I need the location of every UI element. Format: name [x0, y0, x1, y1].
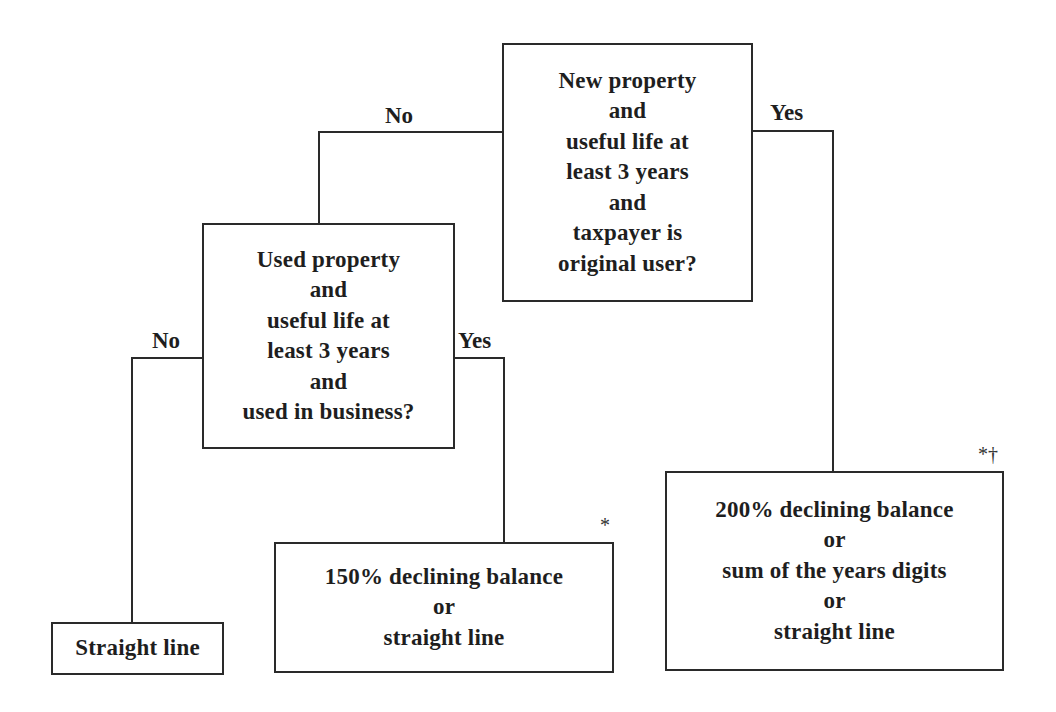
edge-label-second-no: No: [152, 328, 180, 354]
declining-200-line-1: 200% declining balance: [715, 495, 953, 526]
outcome-150-declining-box: 150% declining balance or straight line: [274, 542, 614, 673]
second-line-2: and: [310, 275, 348, 306]
root-line-2: and: [609, 96, 647, 127]
declining-150-line-1: 150% declining balance: [325, 562, 563, 593]
edge-label-second-yes: Yes: [458, 328, 491, 354]
edge-second-no: [132, 358, 202, 622]
edge-root-yes: [752, 131, 833, 471]
declining-150-line-2: or: [433, 592, 455, 623]
footnote-mark-200: *†: [978, 443, 998, 465]
decision-tree-diagram: New property and useful life at least 3 …: [0, 0, 1056, 712]
declining-200-line-5: straight line: [774, 617, 895, 648]
root-decision-box: New property and useful life at least 3 …: [502, 43, 753, 302]
footnote-mark-150: *: [600, 514, 610, 536]
edge-second-yes: [454, 358, 504, 542]
straight-line-text: Straight line: [75, 633, 200, 664]
root-line-7: original user?: [558, 249, 697, 280]
declining-150-line-3: straight line: [384, 623, 505, 654]
declining-200-line-2: or: [823, 525, 845, 556]
second-decision-box: Used property and useful life at least 3…: [202, 223, 455, 449]
root-line-6: taxpayer is: [573, 218, 683, 249]
root-line-3: useful life at: [566, 127, 689, 158]
second-line-3: useful life at: [267, 306, 390, 337]
second-line-6: used in business?: [242, 397, 414, 428]
second-line-5: and: [310, 367, 348, 398]
outcome-straight-line-box: Straight line: [51, 622, 224, 675]
declining-200-line-4: or: [823, 586, 845, 617]
second-line-1: Used property: [257, 245, 400, 276]
declining-200-line-3: sum of the years digits: [722, 556, 946, 587]
outcome-200-declining-box: 200% declining balance or sum of the yea…: [665, 471, 1004, 671]
root-line-1: New property: [558, 66, 696, 97]
edge-label-root-yes: Yes: [770, 100, 803, 126]
edge-label-root-no: No: [385, 103, 413, 129]
root-line-5: and: [609, 188, 647, 219]
second-line-4: least 3 years: [267, 336, 390, 367]
edge-root-no: [319, 132, 502, 223]
root-line-4: least 3 years: [566, 157, 689, 188]
